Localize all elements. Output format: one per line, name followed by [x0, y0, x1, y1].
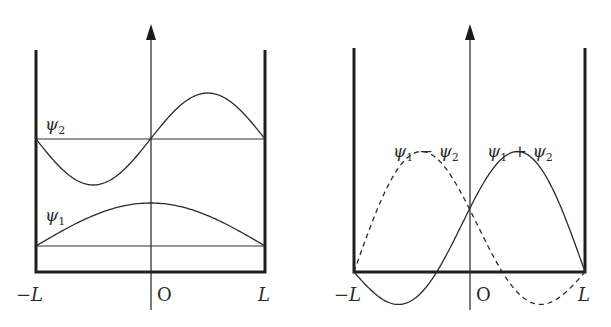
psi2-label: ψ2 — [45, 114, 65, 137]
psi1-label: ψ1 — [45, 205, 65, 228]
x-label-minus-L: −L — [334, 284, 361, 305]
axis-arrow-icon — [146, 24, 156, 40]
right-panel: ψ1 − ψ2 ψ1 + ψ2 −L O L — [334, 24, 590, 310]
x-label-origin: O — [476, 284, 491, 305]
psi1-minus-psi2-label: ψ1 − ψ2 — [393, 141, 459, 164]
x-label-L: L — [257, 284, 270, 305]
left-panel: ψ2 ψ1 −L O L — [16, 24, 270, 310]
figure: ψ2 ψ1 −L O L ψ1 − ψ2 ψ1 + ψ2 −L O L — [0, 0, 611, 327]
x-label-minus-L: −L — [16, 284, 43, 305]
axis-arrow-icon — [465, 24, 475, 40]
x-label-origin: O — [157, 284, 172, 305]
psi1-plus-psi2-label: ψ1 + ψ2 — [487, 141, 553, 164]
x-label-L: L — [577, 284, 590, 305]
